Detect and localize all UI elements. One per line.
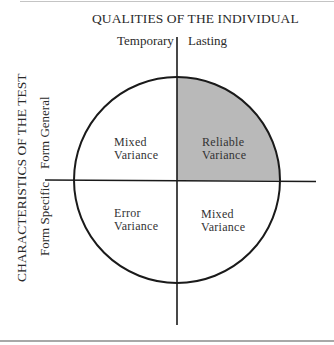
variance-circle-diagram xyxy=(0,0,334,345)
top-axis-right-label: Lasting xyxy=(188,33,227,49)
reliable-variance-shaded-quadrant xyxy=(177,77,280,180)
quadrant-upper-left: Mixed Variance xyxy=(114,136,158,162)
quadrant-lower-right-line2: Variance xyxy=(201,221,245,234)
quadrant-upper-right-line2: Variance xyxy=(202,149,246,162)
horizontal-axis-line xyxy=(45,180,316,182)
top-axis-left-label: Temporary xyxy=(117,33,174,49)
quadrant-upper-right: Reliable Variance xyxy=(202,136,246,162)
quadrant-lower-left-line2: Variance xyxy=(114,220,158,233)
quadrant-upper-left-line2: Variance xyxy=(114,149,158,162)
top-axis-title: QUALITIES OF THE INDIVIDUAL xyxy=(92,11,299,27)
left-axis-lower-label: Form Specific xyxy=(37,182,53,256)
quadrant-lower-left: Error Variance xyxy=(114,207,158,233)
left-axis-title: CHARACTERISTICS OF THE TEST xyxy=(14,74,30,282)
left-axis-upper-label: Form General xyxy=(37,96,53,169)
quadrant-lower-right: Mixed Variance xyxy=(201,208,245,234)
